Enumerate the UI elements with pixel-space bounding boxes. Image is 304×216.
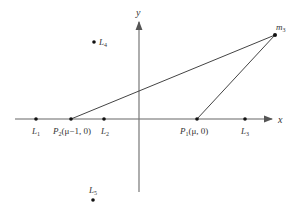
- label-p1: P1(μ, 0): [179, 126, 208, 137]
- label-l1: L1: [31, 126, 40, 137]
- line-p2-m3: [71, 35, 275, 119]
- point-p2: [69, 117, 73, 121]
- x-axis-label: x: [277, 114, 283, 125]
- label-m3: m3: [276, 22, 286, 33]
- line-p1-m3: [197, 35, 275, 119]
- label-l3: L3: [240, 126, 249, 137]
- point-p1: [195, 117, 199, 121]
- point-l5: [91, 198, 95, 202]
- point-l1: [34, 117, 38, 121]
- label-l5: L5: [88, 185, 97, 196]
- restricted-three-body-diagram: x y L1 P2(μ−1, 0) L2 P1(μ, 0) L3 L4 L5 m…: [0, 0, 304, 216]
- label-p2: P2(μ−1, 0): [52, 126, 91, 137]
- label-l4: L4: [98, 37, 107, 48]
- point-l3: [243, 117, 247, 121]
- point-m3: [273, 33, 277, 37]
- label-l2: L2: [100, 126, 109, 137]
- y-axis-label: y: [135, 7, 141, 18]
- point-l2: [102, 117, 106, 121]
- point-l4: [92, 40, 96, 44]
